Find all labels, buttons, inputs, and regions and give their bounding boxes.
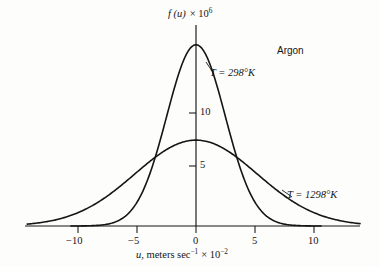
y-axis-title: f (u)× 106 [168, 9, 212, 20]
y-axis-title-function: f (u) [168, 8, 186, 19]
x-tick-label-5: 5 [252, 236, 257, 247]
y-tick-label-10: 10 [200, 107, 211, 118]
x-tick-label-10: 10 [308, 236, 319, 247]
y-tick-label-5: 5 [200, 160, 205, 171]
series-label-298k: T = 298°K [210, 68, 255, 79]
x-tick-label-neg5: −5 [128, 236, 139, 247]
series-label-1298k: T = 1298°K [287, 190, 337, 201]
x-axis-title-units: , meters sec [141, 249, 190, 260]
x-tick-label-0: 0 [193, 236, 198, 247]
y-axis-title-multiplier: × 10 [190, 8, 209, 19]
gas-species-label: Argon [277, 46, 304, 56]
x-tick-label-neg10: −10 [66, 236, 82, 247]
curve-1298k [27, 140, 360, 224]
y-axis-title-exponent: 6 [209, 7, 213, 15]
x-axis-title-multiplier: × 10 [201, 249, 220, 260]
x-axis-title-exponent-1: −1 [191, 248, 199, 256]
x-axis-title: u, meters sec−1× 10−2 [136, 250, 228, 261]
x-axis-ticks [78, 226, 314, 233]
x-axis-title-exponent-2: −2 [220, 248, 228, 256]
plot-area [0, 0, 379, 267]
figure-canvas: f (u)× 106 10 5 −10 −5 0 5 10 u, meters … [0, 0, 379, 267]
